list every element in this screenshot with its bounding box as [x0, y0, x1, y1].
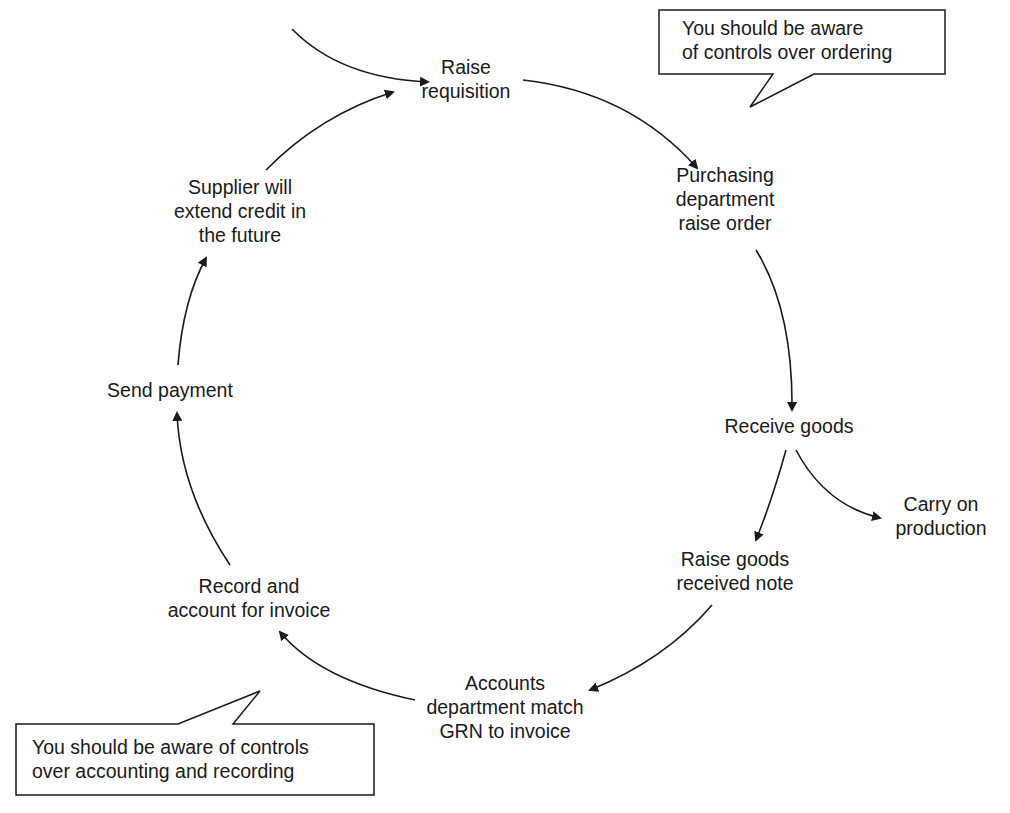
callout-line: You should be aware of controls [32, 735, 309, 759]
node-line: extend credit in [174, 199, 306, 223]
arrow-grn-to-accounts [590, 605, 712, 690]
arrow-purchasing-to-receive [756, 250, 792, 410]
callout-line: over accounting and recording [32, 759, 309, 783]
node-line: received note [676, 571, 793, 595]
arrow-requisition-to-purchasing [523, 80, 697, 168]
ordering-callout: You should be aware of controls over ord… [682, 16, 892, 64]
node-raise-grn: Raise goods received note [676, 547, 793, 595]
arrow-receive-to-production [796, 450, 880, 518]
node-line: Receive goods [725, 414, 854, 438]
arrow-record-to-payment [177, 413, 230, 565]
arrow-start-to-requisition [292, 29, 428, 82]
node-record-invoice: Record and account for invoice [168, 574, 331, 622]
node-line: department [676, 187, 775, 211]
node-carry-on-production: Carry on production [895, 492, 986, 540]
node-line: department match [426, 695, 583, 719]
node-accounts-match: Accounts department match GRN to invoice [426, 671, 583, 743]
node-line: Supplier will [174, 175, 306, 199]
node-line: account for invoice [168, 598, 331, 622]
node-send-payment: Send payment [107, 378, 233, 402]
node-receive-goods: Receive goods [725, 414, 854, 438]
node-line: requisition [422, 79, 511, 103]
node-line: production [895, 516, 986, 540]
arrow-supplier-to-requisition [266, 92, 393, 170]
node-line: Raise goods [676, 547, 793, 571]
arrow-receive-to-grn [756, 450, 786, 540]
node-supplier-credit: Supplier will extend credit in the futur… [174, 175, 306, 247]
node-line: Accounts [426, 671, 583, 695]
node-line: Send payment [107, 378, 233, 402]
node-line: Record and [168, 574, 331, 598]
node-line: Carry on [895, 492, 986, 516]
node-line: Purchasing [676, 163, 775, 187]
accounting-callout: You should be aware of controls over acc… [32, 735, 309, 783]
arrow-accounts-to-record [280, 632, 415, 700]
arrow-payment-to-supplier [178, 258, 206, 365]
callout-line: You should be aware [682, 16, 892, 40]
node-purchasing-raise-order: Purchasing department raise order [676, 163, 775, 235]
callout-line: of controls over ordering [682, 40, 892, 64]
node-line: raise order [676, 211, 775, 235]
node-raise-requisition: Raise requisition [422, 55, 511, 103]
node-line: the future [174, 223, 306, 247]
node-line: GRN to invoice [426, 719, 583, 743]
node-line: Raise [422, 55, 511, 79]
